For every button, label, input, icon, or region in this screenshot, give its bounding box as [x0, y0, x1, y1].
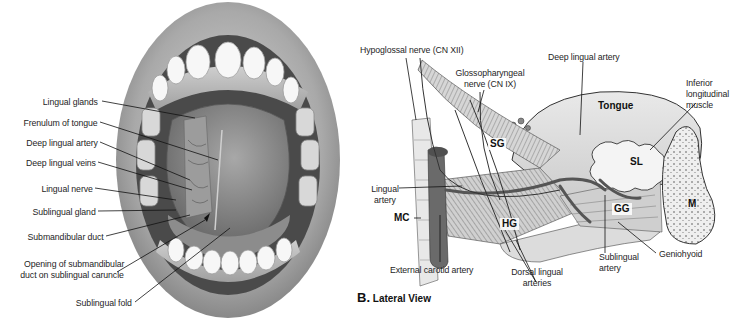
label-glossopharyngeal-line1: Glossopharyngeal	[453, 67, 527, 78]
label-inferior-longitudinal-line2: longitudinal	[686, 88, 729, 99]
abbr-styloglossus: SG	[488, 138, 506, 150]
label-opening-submandibular-duct-line2: duct on sublingual caruncle	[20, 269, 119, 280]
abbr-mandible: M	[686, 198, 698, 210]
label-dorsal-lingual-line1: Dorsal lingual	[500, 266, 574, 277]
label-glossopharyngeal-line2: nerve (CN IX)	[455, 78, 525, 89]
label-submandibular-duct: Submandibular duct	[28, 231, 104, 242]
label-inferior-longitudinal-line3: muscle	[686, 99, 713, 110]
label-lingual-glands: Lingual glands	[43, 96, 98, 107]
label-sublingual-fold: Sublingual fold	[76, 297, 132, 308]
label-frenulum-of-tongue: Frenulum of tongue	[24, 117, 98, 128]
label-lingual-nerve: Lingual nerve	[42, 183, 93, 194]
abbr-mandibular-canal: MC	[392, 212, 412, 224]
label-inferior-longitudinal-line1: Inferior	[686, 77, 712, 88]
mouth-illustration	[116, 2, 340, 318]
panel-b-title: B. Lateral View	[357, 290, 431, 305]
abbr-sublingual-gland: SL	[628, 156, 645, 168]
label-sublingual-gland: Sublingual gland	[33, 206, 96, 217]
anatomy-figure: Lingual glands Frenulum of tongue Deep l…	[0, 0, 740, 329]
label-lingual-artery-line1: Lingual	[369, 183, 400, 194]
label-deep-lingual-artery: Deep lingual artery	[26, 137, 98, 148]
abbr-hyoglossus: HG	[500, 218, 519, 230]
abbr-tongue: Tongue	[596, 100, 635, 112]
label-deep-lingual-artery-b: Deep lingual artery	[548, 51, 620, 62]
label-geniohyoid: Geniohyoid	[659, 248, 702, 259]
label-deep-lingual-veins: Deep lingual veins	[26, 157, 96, 168]
abbr-genioglossus: GG	[612, 203, 632, 215]
label-sublingual-artery-line2: artery	[599, 262, 621, 273]
label-sublingual-artery-line1: Sublingual	[599, 251, 639, 262]
panel-b-view-name: Lateral View	[373, 293, 431, 304]
label-lingual-artery-line2: artery	[369, 194, 400, 205]
label-hypoglossal-nerve: Hypoglossal nerve (CN XII)	[360, 44, 464, 55]
panel-b-letter: B.	[357, 290, 370, 305]
label-opening-submandibular-duct-line1: Opening of submandibular	[24, 258, 116, 269]
label-dorsal-lingual-line2: arteries	[500, 277, 574, 288]
label-external-carotid-artery: External carotid artery	[390, 264, 473, 275]
